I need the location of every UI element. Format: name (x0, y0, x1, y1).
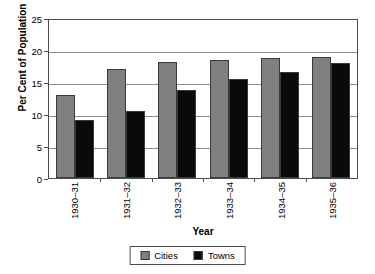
x-label-cell: 1932–33 (151, 180, 203, 226)
legend-swatch-towns (194, 251, 203, 260)
legend-entry-towns[interactable]: Towns (194, 250, 235, 261)
bar-chart-figure: Per Cent of Population 0510152025 1930–3… (0, 0, 375, 274)
bar-towns-1932–33[interactable] (177, 90, 196, 178)
bar-towns-1930–31[interactable] (75, 120, 94, 178)
x-label-cell: 1930–31 (48, 180, 100, 226)
bar-group (49, 20, 100, 178)
y-tick-label-5: 5 (20, 142, 42, 153)
bar-cities-1931–32[interactable] (107, 69, 126, 178)
bar-towns-1931–32[interactable] (126, 111, 145, 178)
bar-cities-1930–31[interactable] (56, 95, 75, 178)
y-tick-label-15: 15 (20, 78, 42, 89)
x-label-cell: 1934–35 (255, 180, 307, 226)
x-tick-label-1935–36: 1935–36 (327, 182, 338, 219)
x-tick-label-1934–35: 1934–35 (275, 182, 286, 219)
bar-group (254, 20, 305, 178)
bar-group (152, 20, 203, 178)
bar-towns-1934–35[interactable] (280, 72, 299, 178)
bar-cities-1933–34[interactable] (210, 60, 229, 178)
y-tick-mark-10 (44, 115, 48, 116)
plot-area (48, 19, 358, 179)
bar-towns-1935–36[interactable] (331, 63, 350, 178)
x-axis-tick-labels: 1930–311931–321932–331933–341934–351935–… (48, 180, 358, 226)
bar-group (100, 20, 151, 178)
y-tick-label-20: 20 (20, 46, 42, 57)
bar-towns-1933–34[interactable] (229, 79, 248, 178)
legend-label-cities: Cities (154, 250, 178, 261)
y-tick-mark-20 (44, 51, 48, 52)
bar-cities-1932–33[interactable] (158, 62, 177, 178)
x-label-cell: 1931–32 (100, 180, 152, 226)
y-tick-label-0: 0 (20, 174, 42, 185)
x-tick-label-1931–32: 1931–32 (120, 182, 131, 219)
chart-legend: CitiesTowns (129, 246, 246, 265)
bar-group (306, 20, 357, 178)
y-tick-mark-5 (44, 147, 48, 148)
x-label-cell: 1935–36 (306, 180, 358, 226)
bar-cities-1935–36[interactable] (312, 57, 331, 178)
bar-groups (49, 20, 357, 178)
bar-group (203, 20, 254, 178)
x-label-cell: 1933–34 (203, 180, 255, 226)
legend-label-towns: Towns (208, 250, 235, 261)
legend-entry-cities[interactable]: Cities (140, 250, 178, 261)
x-tick-label-1930–31: 1930–31 (68, 182, 79, 219)
y-tick-mark-25 (44, 19, 48, 20)
y-tick-mark-15 (44, 83, 48, 84)
legend-swatch-cities (140, 251, 149, 260)
x-tick-label-1933–34: 1933–34 (223, 182, 234, 219)
x-axis-title: Year (48, 226, 358, 237)
bar-cities-1934–35[interactable] (261, 58, 280, 178)
x-tick-label-1932–33: 1932–33 (172, 182, 183, 219)
y-tick-label-10: 10 (20, 110, 42, 121)
y-tick-label-25: 25 (20, 14, 42, 25)
